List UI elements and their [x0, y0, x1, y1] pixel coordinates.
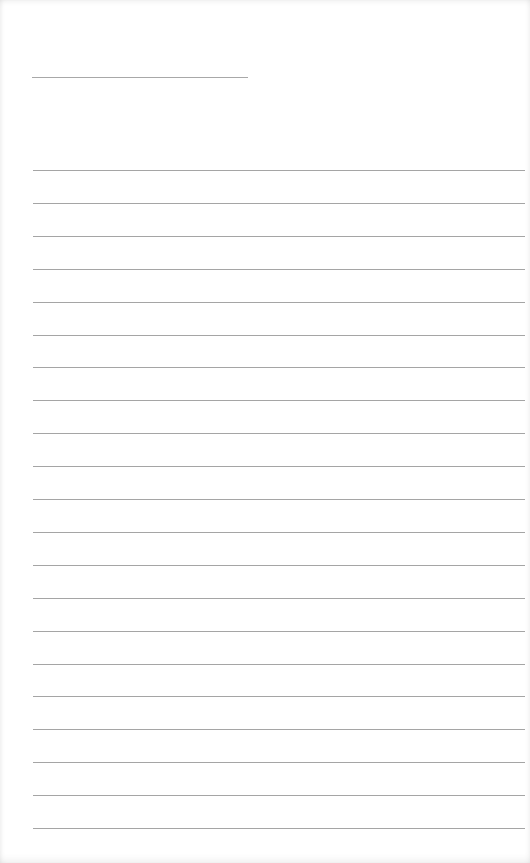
lined-paper-page	[0, 0, 530, 863]
ruled-line	[33, 828, 525, 829]
ruled-line	[33, 762, 525, 763]
ruled-line	[33, 598, 525, 599]
ruled-line	[33, 400, 525, 401]
ruled-line	[33, 236, 525, 237]
ruled-line	[33, 729, 525, 730]
ruled-line	[33, 466, 525, 467]
ruled-line	[33, 269, 525, 270]
ruled-line	[33, 631, 525, 632]
ruled-line	[33, 696, 525, 697]
ruled-line	[33, 203, 525, 204]
ruled-line	[33, 565, 525, 566]
ruled-line	[33, 532, 525, 533]
ruled-line	[33, 433, 525, 434]
ruled-line	[33, 335, 525, 336]
title-underline	[32, 77, 248, 78]
ruled-line	[33, 795, 525, 796]
ruled-line	[33, 664, 525, 665]
ruled-line	[33, 170, 525, 171]
ruled-line	[33, 499, 525, 500]
ruled-line	[33, 302, 525, 303]
ruled-line	[33, 367, 525, 368]
